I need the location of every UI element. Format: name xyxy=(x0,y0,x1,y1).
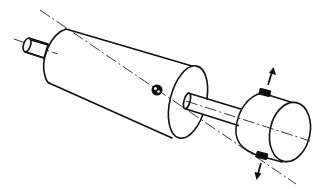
pivot-ball-icon xyxy=(152,85,163,96)
alignment-diagram xyxy=(0,0,325,189)
arrow-down-icon xyxy=(255,163,262,180)
small-cylinder xyxy=(236,93,316,166)
large-cylinder xyxy=(44,29,215,142)
arrow-up-icon xyxy=(268,67,276,85)
input-shaft xyxy=(22,37,48,58)
